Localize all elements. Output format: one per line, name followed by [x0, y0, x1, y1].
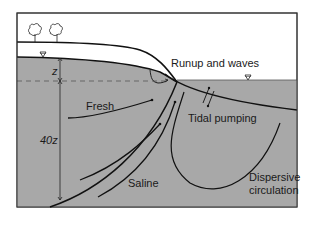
- forty-z-dimension-label: 40z: [40, 134, 58, 146]
- runup-waves-label: Runup and waves: [171, 57, 259, 69]
- fresh-label: Fresh: [86, 100, 114, 112]
- circulation-label: circulation: [249, 184, 299, 196]
- tidal-pumping-label: Tidal pumping: [188, 112, 257, 124]
- z-dimension-label: z: [52, 65, 58, 77]
- saline-label: Saline: [128, 177, 159, 189]
- dispersive-label: Dispersive: [249, 171, 300, 183]
